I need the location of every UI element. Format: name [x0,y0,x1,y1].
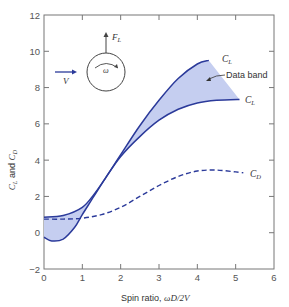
x-tick-label: 0 [41,272,46,283]
spinning-cylinder-diagram: ω FL V [55,32,125,91]
y-tick-label: 6 [35,118,40,129]
x-tick-label: 1 [80,272,85,283]
velocity-arrowhead-icon [72,70,77,75]
y-tick-label: 2 [35,191,40,202]
x-tick-label: 3 [156,272,161,283]
x-axis-title: Spin ratio, ωD/2V [121,293,191,303]
y-tick-label: −2 [29,264,40,275]
y-tick-label: 12 [29,10,40,21]
plot-frame [44,15,274,269]
y-tick-label: 10 [29,46,40,57]
lift-label: FL [111,32,122,43]
axis-ticks: 0123456−2024681012 [29,10,276,284]
cd-label: CD [250,169,261,180]
omega-label: ω [103,66,109,75]
data-band [44,60,240,241]
y-tick-label: 8 [35,82,40,93]
lift-arrowhead-icon [104,32,109,37]
svg-text:CL and CD: CL and CD [7,150,18,191]
y-tick-label: 0 [35,227,40,238]
chart: 0123456−2024681012 ω FL V CL CL CD Data … [0,0,289,307]
data-band-fill [44,60,240,241]
x-tick-label: 4 [195,272,200,283]
cl-lower-label: CL [245,95,255,106]
velocity-label: V [63,76,70,86]
cl-upper-label: CL [222,54,232,65]
x-tick-label: 2 [118,272,123,283]
x-tick-label: 5 [233,272,238,283]
data-band-label: Data band [226,70,268,80]
y-tick-label: 4 [35,155,40,166]
y-axis-title: CL and CD [7,150,18,191]
x-tick-label: 6 [271,272,276,283]
